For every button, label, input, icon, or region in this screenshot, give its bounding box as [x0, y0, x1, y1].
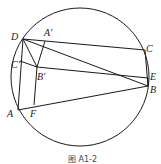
segment-DC — [23, 39, 145, 50]
label-B: B — [150, 84, 156, 95]
segment-AB — [18, 86, 148, 110]
label-C-prime: C' — [11, 59, 21, 70]
geometry-figure: D A' C C' B' E B A F 图 A1-2 — [0, 0, 161, 164]
segment-DA — [18, 39, 23, 110]
figure-caption: 图 A1-2 — [68, 155, 97, 164]
label-A-prime: A' — [43, 27, 53, 38]
label-E: E — [149, 71, 156, 82]
segment-B-prime-E — [37, 67, 148, 78]
label-B-prime: B' — [37, 71, 46, 82]
circumcircle — [11, 8, 149, 146]
label-C: C — [146, 43, 153, 54]
label-A: A — [6, 108, 14, 119]
label-D: D — [10, 31, 19, 42]
label-F: F — [29, 108, 37, 119]
